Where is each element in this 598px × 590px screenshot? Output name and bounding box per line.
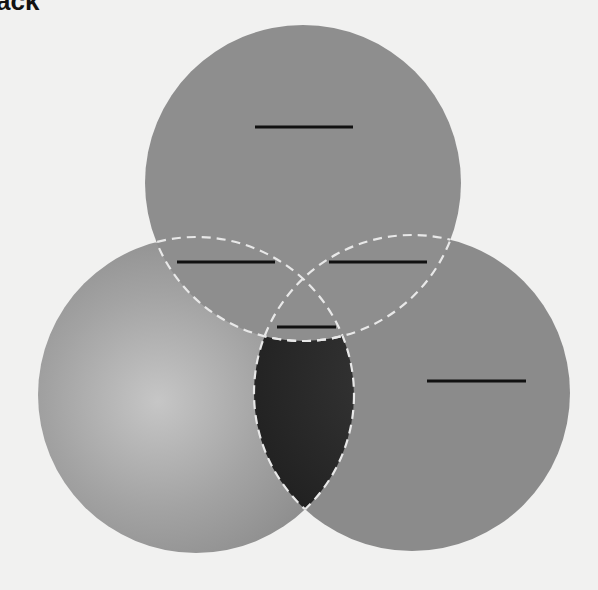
venn-diagram bbox=[0, 0, 598, 590]
